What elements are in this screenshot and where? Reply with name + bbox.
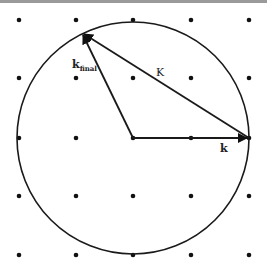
label-k-final: kfinal	[72, 58, 97, 73]
lattice-point	[74, 136, 79, 141]
lattice-point	[189, 253, 194, 258]
lattice-point	[247, 194, 252, 199]
lattice-point	[189, 76, 194, 81]
lattice-point	[74, 18, 79, 23]
lattice-point	[17, 194, 22, 199]
label-K: K	[156, 66, 165, 79]
lattice-point	[17, 18, 22, 23]
lattice-point	[17, 76, 22, 81]
lattice-point	[131, 76, 136, 81]
label-k-final-sub: final	[80, 64, 98, 73]
lattice-point	[74, 253, 79, 258]
lattice-point	[74, 76, 79, 81]
lattice-point	[189, 194, 194, 199]
lattice-point	[247, 76, 252, 81]
lattice-point	[247, 253, 252, 258]
lattice-point	[131, 194, 136, 199]
lattice-point	[247, 18, 252, 23]
lattice-point	[189, 18, 194, 23]
lattice-point	[17, 253, 22, 258]
ewald-diagram: k kfinal K	[0, 0, 267, 270]
label-k: k	[220, 142, 228, 155]
lattice-point	[74, 194, 79, 199]
vector-k-final	[83, 35, 133, 138]
